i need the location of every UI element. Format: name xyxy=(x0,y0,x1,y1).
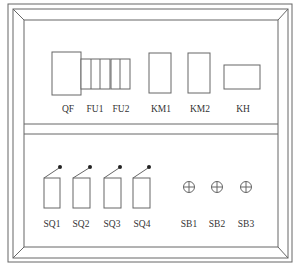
svg-text:KM2: KM2 xyxy=(190,104,210,114)
svg-text:SB3: SB3 xyxy=(238,219,255,229)
component-sb2: SB2 xyxy=(209,182,226,230)
svg-text:SQ4: SQ4 xyxy=(134,219,151,229)
svg-text:FU2: FU2 xyxy=(113,104,130,114)
bevel-bottom-left xyxy=(13,247,24,258)
bevel-bottom-right xyxy=(278,247,288,258)
control-panel-diagram: QF FU1 FU2 KM1 KM2 KH SQ1 SQ2 S xyxy=(0,0,300,266)
svg-text:KM1: KM1 xyxy=(151,104,171,114)
component-kh: KH xyxy=(224,65,260,114)
component-sq3: SQ3 xyxy=(104,165,122,229)
svg-text:SB1: SB1 xyxy=(181,219,198,229)
svg-text:SB2: SB2 xyxy=(209,219,226,229)
bevel-top-left xyxy=(13,9,24,20)
component-sb3: SB3 xyxy=(238,182,255,230)
svg-text:SQ3: SQ3 xyxy=(104,219,121,229)
bevel-top-right xyxy=(278,9,288,20)
component-sq4: SQ4 xyxy=(133,165,151,229)
svg-text:SQ2: SQ2 xyxy=(73,219,90,229)
component-km1: KM1 xyxy=(149,53,171,114)
component-km2: KM2 xyxy=(188,53,210,114)
component-qf: QF xyxy=(52,52,81,114)
svg-text:SQ1: SQ1 xyxy=(44,219,61,229)
svg-text:KH: KH xyxy=(236,104,250,114)
component-fu2: FU2 xyxy=(111,59,130,114)
component-fu1: FU1 xyxy=(81,59,110,114)
svg-text:FU1: FU1 xyxy=(87,104,104,114)
component-sq2: SQ2 xyxy=(73,165,92,229)
svg-text:QF: QF xyxy=(62,104,74,114)
component-sq1: SQ1 xyxy=(44,165,62,229)
component-sb1: SB1 xyxy=(181,182,198,230)
